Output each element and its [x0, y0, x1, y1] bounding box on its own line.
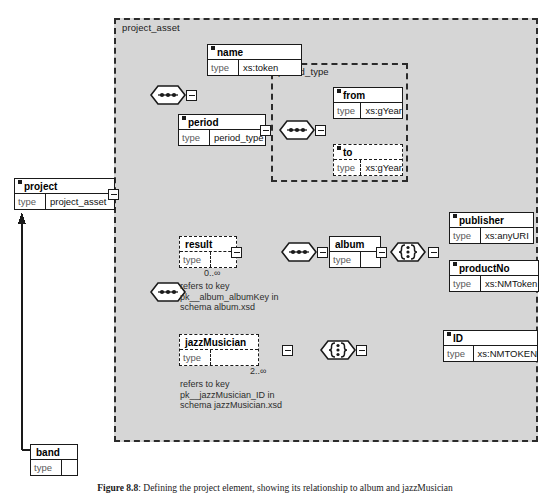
node-productno[interactable]: productNo type xs:NMToken — [449, 260, 539, 292]
figure-caption-number: Figure 8.8 — [97, 483, 138, 493]
node-publisher-type-row: type xs:anyURI — [450, 228, 533, 243]
node-to-header: to — [334, 145, 402, 160]
node-period[interactable]: period type period_type — [178, 114, 266, 146]
attribute-marker-icon — [211, 46, 215, 50]
node-album-type-key: type — [330, 252, 361, 267]
jazzmusician-note-line-2: pk__jazzMusician_ID in — [180, 390, 282, 401]
collapse-stub-jazzmusician[interactable] — [282, 345, 293, 356]
node-name-type-key: type — [208, 60, 239, 75]
node-productno-name: productNo — [459, 263, 510, 274]
node-name-type-value: xs:token — [239, 60, 301, 75]
node-name-header: name — [208, 45, 301, 60]
node-jazzmusician-header: jazzMusician — [180, 335, 258, 350]
node-album-type-row: type — [330, 252, 380, 267]
collapse-stub-album[interactable] — [376, 247, 387, 258]
collapse-stub-sequence-period-type[interactable] — [315, 125, 326, 136]
collapse-stub-period[interactable] — [260, 125, 271, 136]
node-productno-type-key: type — [450, 276, 481, 291]
collapse-stub-project[interactable] — [108, 189, 119, 200]
collapse-stub-sequence-album[interactable] — [317, 247, 328, 258]
jazzmusician-note-line-1: refers to key — [180, 379, 282, 390]
node-id-header: ID — [444, 331, 537, 346]
node-band[interactable]: band type — [30, 444, 78, 476]
node-publisher-header: publisher — [450, 213, 533, 228]
node-result-type-key: type — [180, 252, 211, 267]
node-from-type-row: type xs:gYear — [334, 103, 402, 118]
node-jazzmusician-name: jazzMusician — [185, 337, 246, 348]
node-to-name: to — [343, 147, 352, 158]
attribute-marker-icon — [453, 262, 457, 266]
node-id[interactable]: ID type xs:NMTOKEN — [443, 330, 538, 362]
node-from[interactable]: from type xs:gYear — [333, 87, 403, 119]
attribute-marker-icon — [337, 89, 341, 93]
node-from-type-key: type — [334, 103, 361, 118]
node-publisher-name: publisher — [459, 215, 504, 226]
node-result[interactable]: result type — [179, 236, 237, 268]
node-band-type-value — [62, 460, 77, 475]
collapse-stub-result[interactable] — [231, 247, 242, 258]
node-publisher-type-key: type — [450, 228, 481, 243]
result-note-line-1: refers to key — [180, 281, 279, 292]
compositor-all-jazzmusician-id[interactable] — [320, 340, 356, 360]
node-jazzmusician-type-key: type — [180, 350, 211, 365]
node-project[interactable]: project type project_asset — [14, 178, 115, 210]
node-to-type-value: xs:gYear — [361, 160, 402, 175]
node-band-type-key: type — [31, 460, 62, 475]
compositor-all-album-children[interactable] — [390, 242, 426, 262]
jazzmusician-occurrence-label: 2..∞ — [250, 366, 266, 376]
node-name-name: name — [217, 47, 243, 58]
node-name[interactable]: name type xs:token — [207, 44, 302, 76]
compositor-sequence-period-type[interactable] — [279, 120, 315, 140]
node-project-header: project — [15, 179, 114, 194]
result-occurrence-label: 0..∞ — [204, 268, 220, 278]
node-id-type-row: type xs:NMTOKEN — [444, 346, 537, 361]
node-to-type-key: type — [334, 160, 361, 175]
schema-diagram-canvas: project_asset period_type — [0, 0, 550, 496]
result-key-reference-note: refers to key pk__album_albumKey in sche… — [180, 281, 279, 313]
node-jazzmusician-type-value — [211, 350, 258, 365]
node-album[interactable]: album type — [329, 236, 381, 268]
group-project-asset-label: project_asset — [122, 22, 180, 33]
node-project-name: project — [24, 181, 57, 192]
node-band-name: band — [36, 447, 60, 458]
attribute-marker-icon — [182, 116, 186, 120]
node-from-name: from — [343, 90, 365, 101]
node-project-type-value: project_asset — [46, 194, 114, 209]
node-to-type-row: type xs:gYear — [334, 160, 402, 175]
node-id-type-value: xs:NMTOKEN — [474, 346, 537, 361]
node-publisher-type-value: xs:anyURI — [481, 228, 533, 243]
jazzmusician-key-reference-note: refers to key pk__jazzMusician_ID in sch… — [180, 379, 282, 411]
compositor-sequence-project-asset[interactable] — [150, 85, 186, 105]
node-from-type-value: xs:gYear — [361, 103, 402, 118]
node-period-type-value: period_type — [210, 130, 265, 145]
node-project-type-key: type — [15, 194, 46, 209]
attribute-marker-icon — [453, 214, 457, 218]
collapse-stub-sequence-project-asset[interactable] — [186, 90, 197, 101]
collapse-stub-all-jazzmusician-id[interactable] — [356, 345, 367, 356]
figure-caption-text: : Defining the project element, showing … — [138, 483, 452, 493]
node-band-header: band — [31, 445, 77, 460]
node-publisher[interactable]: publisher type xs:anyURI — [449, 212, 534, 244]
jazzmusician-note-line-3: schema jazzMusician.xsd — [180, 400, 282, 411]
node-to[interactable]: to type xs:gYear — [333, 144, 403, 176]
compositor-sequence-album[interactable] — [281, 242, 317, 262]
result-note-line-3: schema album.xsd — [180, 302, 279, 313]
collapse-stub-all-album-children[interactable] — [428, 247, 439, 258]
figure-caption: Figure 8.8: Defining the project element… — [0, 483, 550, 493]
node-productno-header: productNo — [450, 261, 538, 276]
node-album-name: album — [335, 239, 364, 250]
attribute-marker-icon — [447, 332, 451, 336]
node-band-type-row: type — [31, 460, 77, 475]
node-productno-type-value: xs:NMToken — [481, 276, 538, 291]
node-from-header: from — [334, 88, 402, 103]
node-jazzmusician[interactable]: jazzMusician type — [179, 334, 259, 366]
node-jazzmusician-type-row: type — [180, 350, 258, 365]
attribute-marker-icon — [337, 146, 341, 150]
node-result-header: result — [180, 237, 236, 252]
node-id-type-key: type — [444, 346, 474, 361]
node-period-header: period — [179, 115, 265, 130]
node-id-name: ID — [453, 333, 463, 344]
node-period-type-row: type period_type — [179, 130, 265, 145]
node-project-type-row: type project_asset — [15, 194, 114, 209]
node-name-type-row: type xs:token — [208, 60, 301, 75]
